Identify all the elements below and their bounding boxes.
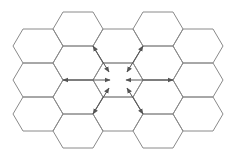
arrow-north-west-icon: [93, 46, 109, 72]
hex-cell: [173, 63, 223, 97]
arrow-north-east-icon: [127, 46, 143, 72]
hex-grid-diagram: [0, 0, 236, 154]
hex-cells: [13, 12, 223, 148]
hex-cell: [173, 29, 223, 63]
neighbor-arrows: [63, 46, 173, 114]
arrow-south-east-icon: [127, 88, 143, 114]
hex-cell: [173, 97, 223, 131]
arrow-south-west-icon: [93, 88, 109, 114]
